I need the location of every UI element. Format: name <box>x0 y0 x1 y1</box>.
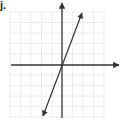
coordinate-graph <box>0 0 124 122</box>
